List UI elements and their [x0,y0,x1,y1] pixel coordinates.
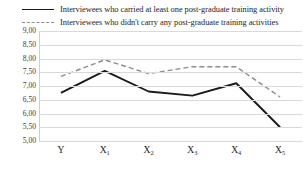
legend-swatch-solid-line-icon [22,5,54,14]
gridline [39,72,302,73]
gridline [39,114,302,115]
y-axis-tick-label: 5,00 [23,137,36,145]
x-axis-tick-label: X3 [170,143,214,165]
y-axis-tick-label: 8,00 [23,55,36,63]
legend-item-solid: Interviewees who carried at least one po… [22,3,305,16]
y-axis-tick-label: 6,00 [23,110,36,118]
gridline [39,127,302,128]
legend-item-dashed: Interviewees who didn't carry any post-g… [22,16,305,29]
chart-legend: Interviewees who carried at least one po… [22,3,305,29]
y-axis-tick-label: 6,50 [23,96,36,104]
y-axis-tick-label: 7,50 [23,68,36,76]
x-axis-tick-label: X4 [214,143,258,165]
line-chart: Interviewees who carried at least one po… [0,0,307,172]
y-axis-tick-label: 5,50 [23,123,36,131]
x-axis-tick-label: X5 [258,143,302,165]
gridline [39,31,302,32]
grid-area [39,31,302,141]
x-axis-tick-label: X2 [127,143,171,165]
x-axis-tick-label: Y [39,143,83,165]
x-axis-tick-label: X1 [83,143,127,165]
y-axis-tick-label: 8,50 [23,41,36,49]
series-line-dashed [61,60,280,97]
x-axis: YX1X2X3X4X5 [39,143,302,165]
gridline [39,45,302,46]
plot-area: 9,008,508,007,507,006,506,005,505,00 YX1… [0,31,307,172]
y-axis-tick-label: 9,00 [23,27,36,35]
legend-label-dashed: Interviewees who didn't carry any post-g… [60,18,278,28]
gridline [39,141,302,142]
y-axis-tick-label: 7,00 [23,82,36,90]
gridline [39,100,302,101]
gridline [39,59,302,60]
y-axis: 9,008,508,007,507,006,506,005,505,00 [8,31,36,151]
gridline [39,86,302,87]
legend-label-solid: Interviewees who carried at least one po… [60,5,284,15]
